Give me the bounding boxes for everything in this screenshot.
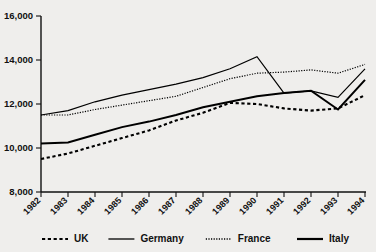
legend-label-italy: Italy — [329, 233, 349, 244]
chart-canvas: 8,00010,00012,00014,00016,000 1982198319… — [0, 0, 376, 252]
y-tick-label: 16,000 — [4, 10, 33, 21]
y-tick-label: 14,000 — [4, 54, 33, 65]
y-tick-label: 12,000 — [4, 98, 33, 109]
y-tick-label: 8,000 — [9, 186, 33, 197]
y-tick-label: 10,000 — [4, 142, 33, 153]
line-chart: 8,00010,00012,00014,00016,000 1982198319… — [0, 0, 376, 252]
legend-label-uk: UK — [74, 233, 89, 244]
legend-label-france: France — [238, 233, 271, 244]
legend-label-germany: Germany — [140, 233, 184, 244]
